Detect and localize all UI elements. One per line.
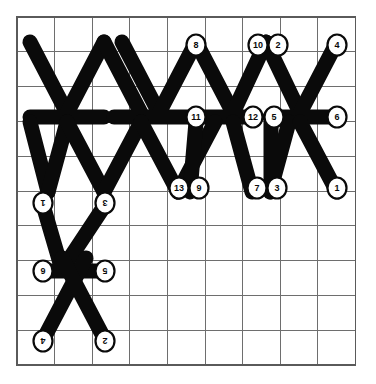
numbered-node[interactable]: 4 [328,35,347,56]
node-circle [187,35,206,56]
numbered-node[interactable]: 3 [268,178,287,199]
node-circle [268,178,287,199]
node-circle [96,193,115,214]
numbered-node[interactable]: 6 [34,261,53,282]
numbered-node[interactable]: 5 [265,107,284,128]
matchstick[interactable] [104,122,141,192]
numbered-node[interactable]: 7 [248,178,267,199]
node-circle [34,261,53,282]
node-circle [170,178,189,199]
node-circle [328,35,347,56]
node-circle [269,35,288,56]
numbered-node[interactable]: 8 [187,35,206,56]
numbered-node[interactable]: 2 [269,35,288,56]
node-circle [190,178,209,199]
node-circle [244,107,263,128]
puzzle-canvas: 81024111256139731136542 [0,0,376,384]
numbered-node[interactable]: 2 [96,331,115,352]
numbered-node[interactable]: 3 [96,193,115,214]
node-circle [249,35,268,56]
matchstick[interactable] [67,122,104,192]
node-circle [265,107,284,128]
numbered-node[interactable]: 12 [244,107,263,128]
puzzle-diagram: 81024111256139731136542 [0,0,376,384]
numbered-node[interactable]: 1 [34,193,53,214]
node-circle [187,107,206,128]
matchstick[interactable] [67,42,104,113]
node-circle [248,178,267,199]
numbered-node[interactable]: 10 [249,35,268,56]
numbered-node[interactable]: 9 [190,178,209,199]
numbered-node[interactable]: 11 [187,107,206,128]
node-circle [34,331,53,352]
numbered-node[interactable]: 6 [328,107,347,128]
node-circle [96,261,115,282]
numbered-node[interactable]: 1 [328,178,347,199]
node-circle [328,178,347,199]
node-circle [34,193,53,214]
numbered-node[interactable]: 5 [96,261,115,282]
node-circle [96,331,115,352]
matchstick[interactable] [30,42,67,113]
node-circle [328,107,347,128]
numbered-node[interactable]: 13 [170,178,189,199]
numbered-node[interactable]: 4 [34,331,53,352]
